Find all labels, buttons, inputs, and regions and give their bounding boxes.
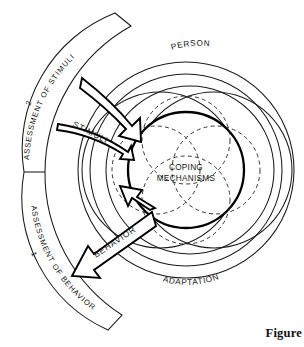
adaptation-label: ADAPTATION [162,272,220,287]
coping-label-line2: MECHANISMS [157,174,216,183]
person-label: PERSON [170,39,211,52]
assessment-band-group [22,13,131,330]
behavior-arrow-group [72,186,156,278]
roy-adaptation-model-svg: COPING MECHANISMS PERSON ADAPTATION ASSE… [0,0,304,347]
coping-label-line1: COPING [169,163,203,172]
person-label-text: PERSON [170,39,211,52]
adaptation-label-text: ADAPTATION [162,272,220,287]
stimuli-arrow-group [57,78,141,160]
figure-caption: Figure [266,326,302,341]
figure-diagram: COPING MECHANISMS PERSON ADAPTATION ASSE… [0,0,304,347]
